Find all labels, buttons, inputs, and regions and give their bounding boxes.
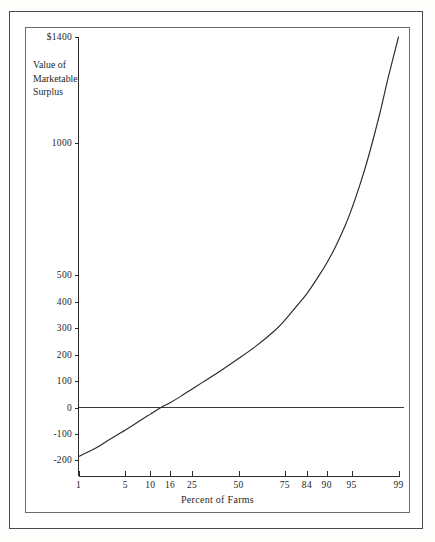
y-tick-label: 400 bbox=[20, 297, 72, 307]
y-tick-label: 200 bbox=[20, 350, 72, 360]
marketable-surplus-curve bbox=[79, 37, 399, 456]
x-tick-label: 1 bbox=[76, 480, 81, 490]
x-tick-label: 84 bbox=[302, 480, 312, 490]
axes-group bbox=[79, 37, 405, 477]
figure-page: Value of Marketable Surplus $14001000500… bbox=[0, 0, 435, 542]
x-axis-title: Percent of Farms bbox=[0, 494, 435, 505]
y-axis-title-line-3: Surplus bbox=[33, 85, 78, 99]
x-axis-ticks bbox=[79, 471, 399, 477]
y-axis-title-line-1: Value of bbox=[33, 58, 78, 72]
y-tick-label: 1000 bbox=[20, 138, 72, 148]
x-tick-label: 95 bbox=[347, 480, 357, 490]
x-tick-label: 16 bbox=[165, 480, 175, 490]
y-axis-ticks bbox=[75, 38, 79, 461]
y-axis-title: Value of Marketable Surplus bbox=[33, 58, 78, 99]
y-tick-label: 0 bbox=[20, 403, 72, 413]
y-axis-title-line-2: Marketable bbox=[33, 72, 78, 86]
x-tick-label: 10 bbox=[145, 480, 155, 490]
x-tick-label: 90 bbox=[322, 480, 332, 490]
x-tick-label: 50 bbox=[233, 480, 243, 490]
x-tick-label: 75 bbox=[280, 480, 290, 490]
x-tick-label: 99 bbox=[393, 480, 403, 490]
y-tick-label: -100 bbox=[20, 429, 72, 439]
y-tick-label: 500 bbox=[20, 270, 72, 280]
x-tick-label: 25 bbox=[187, 480, 197, 490]
x-tick-label: 5 bbox=[123, 480, 128, 490]
y-tick-label: 300 bbox=[20, 323, 72, 333]
y-tick-label: -200 bbox=[20, 455, 72, 465]
y-tick-label: $1400 bbox=[20, 32, 72, 42]
y-tick-label: 100 bbox=[20, 376, 72, 386]
